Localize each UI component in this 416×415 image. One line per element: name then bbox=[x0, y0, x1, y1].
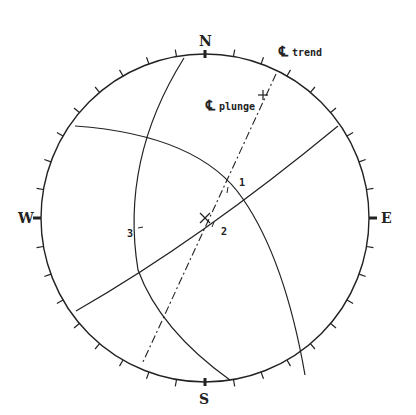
plane-1-label: 1 bbox=[239, 177, 245, 188]
degree-tick bbox=[233, 50, 234, 57]
degree-tick bbox=[120, 360, 124, 366]
degree-tick bbox=[147, 372, 149, 379]
stereonet: N E S W 1 2 3 ℄ trend ℄ plunge bbox=[0, 0, 416, 415]
degree-tick bbox=[74, 323, 79, 327]
degree-tick bbox=[347, 300, 353, 304]
centerline-icon: ℄ bbox=[205, 97, 216, 113]
great-circle-3 bbox=[134, 58, 230, 380]
degree-tick bbox=[175, 50, 176, 57]
degree-tick bbox=[359, 274, 366, 276]
degree-tick bbox=[74, 108, 79, 112]
degree-tick bbox=[331, 108, 336, 112]
degree-tick bbox=[367, 246, 374, 247]
east-label: E bbox=[381, 210, 392, 226]
degree-tick bbox=[37, 188, 44, 189]
degree-tick bbox=[261, 57, 263, 64]
degree-tick bbox=[331, 323, 336, 327]
plane-3-tick bbox=[138, 227, 143, 228]
degree-tick bbox=[44, 160, 51, 162]
degree-tick bbox=[287, 70, 291, 76]
west-label: W bbox=[17, 210, 34, 226]
degree-tick bbox=[367, 188, 374, 189]
trend-label: trend bbox=[292, 47, 322, 58]
degree-tick bbox=[261, 372, 263, 379]
degree-tick bbox=[147, 57, 149, 64]
plane-3-label: 3 bbox=[127, 228, 133, 239]
degree-tick bbox=[57, 133, 63, 137]
degree-tick bbox=[310, 344, 314, 349]
plane-2-label: 2 bbox=[221, 226, 227, 237]
centerline-icon: ℄ bbox=[278, 43, 289, 59]
degree-tick bbox=[95, 344, 99, 349]
degree-tick bbox=[287, 360, 291, 366]
degree-tick bbox=[57, 300, 63, 304]
degree-tick bbox=[175, 380, 176, 387]
degree-tick bbox=[359, 160, 366, 162]
degree-tick bbox=[37, 246, 44, 247]
degree-tick bbox=[233, 380, 234, 387]
great-circle-2 bbox=[76, 126, 338, 311]
degree-tick bbox=[95, 87, 99, 92]
degree-tick bbox=[310, 87, 314, 92]
great-circle-1 bbox=[75, 126, 305, 375]
degree-tick bbox=[120, 70, 124, 76]
degree-tick bbox=[347, 133, 353, 137]
degree-tick bbox=[44, 274, 51, 276]
south-label: S bbox=[199, 391, 209, 407]
plane-1-tick bbox=[227, 187, 228, 193]
north-label: N bbox=[199, 33, 212, 49]
plunge-label: plunge bbox=[219, 101, 255, 112]
